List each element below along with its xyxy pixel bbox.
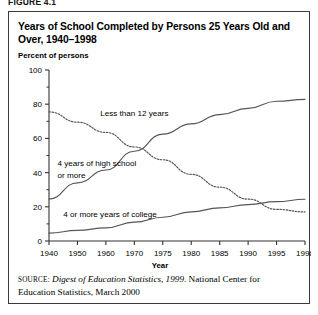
x-tick-label: 1985 [211, 249, 229, 258]
source-kicker: SOURCE: [18, 276, 50, 284]
series-line [49, 99, 305, 199]
y-tick-label: 20 [33, 203, 42, 212]
x-tick-label: 1990 [239, 249, 257, 258]
y-tick-label: 60 [33, 134, 42, 143]
source-publication: Digest of Education Statistics, 1999 [52, 274, 184, 284]
figure-number-label: FIGURE 4.1 [8, 0, 56, 7]
series-label: Less than 12 years [100, 109, 168, 118]
y-tick-label-group: 020406080100 [29, 66, 43, 246]
y-tick-label: 0 [38, 237, 43, 246]
x-tick-label: 1970 [125, 249, 143, 258]
x-tick-label: 1998 [296, 249, 311, 258]
series-label: 4 or more years of college [63, 210, 157, 219]
x-axis-title: Year [9, 261, 311, 270]
chart-title: Years of School Completed by Persons 25 … [18, 20, 302, 46]
figure-panel: Years of School Completed by Persons 25 … [8, 11, 310, 304]
series-annotation-group: Less than 12 years4 years of high school… [58, 109, 169, 219]
y-tick-label: 100 [29, 66, 43, 75]
x-tick-label: 1995 [268, 249, 286, 258]
plot-area: 020406080100 Less than 12 years4 years o… [9, 58, 311, 263]
series-label: or more [58, 171, 86, 180]
x-tick-label: 1940 [40, 249, 58, 258]
x-tick-label: 1960 [97, 249, 115, 258]
y-tick-label: 40 [33, 169, 42, 178]
x-tick-label: 1980 [182, 249, 200, 258]
x-tick-label: 1975 [154, 249, 172, 258]
y-tick-label: 80 [33, 100, 42, 109]
x-tick-label: 1950 [69, 249, 87, 258]
x-tick-label-group: 1940195019601970197519801985199019951998 [40, 249, 311, 258]
series-label: 4 years of high school [58, 159, 137, 168]
source-note: SOURCE: Digest of Education Statistics, … [18, 274, 298, 298]
line-chart-svg: 020406080100 Less than 12 years4 years o… [9, 58, 311, 263]
